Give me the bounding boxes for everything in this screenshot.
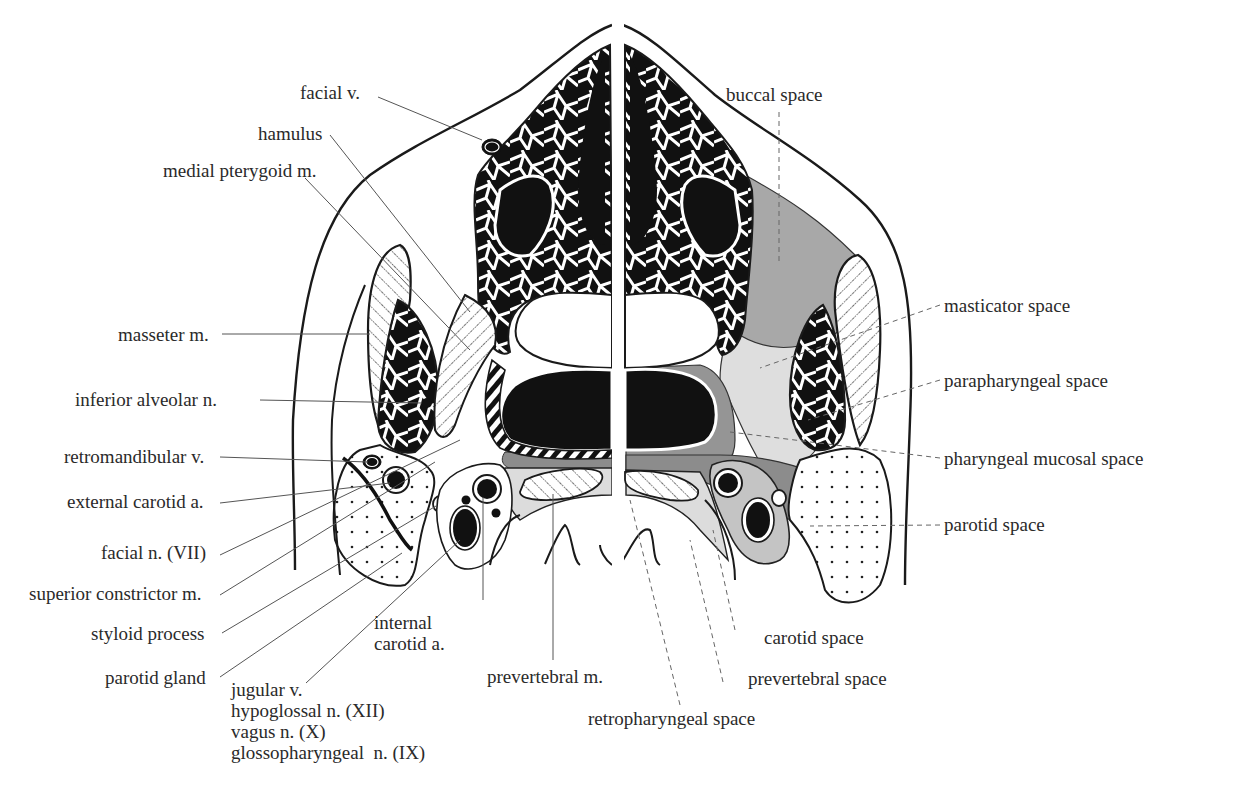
label-facial-v: facial v. <box>300 82 360 104</box>
label-external-carotid: external carotid a. <box>67 491 204 513</box>
label-pharyngeal-mucosal-space: pharyngeal mucosal space <box>944 448 1143 470</box>
label-parotid-gland: parotid gland <box>105 667 206 689</box>
label-carotid-space: carotid space <box>764 627 864 649</box>
label-internal-carotid: internal carotid a. <box>374 612 445 654</box>
label-hamulus: hamulus <box>258 123 322 145</box>
oral-cavity <box>516 293 612 368</box>
label-facial-n: facial n. (VII) <box>101 542 206 564</box>
left-nerve-dot-1 <box>462 496 471 505</box>
left-nerve-dot-2 <box>492 509 501 518</box>
left-tongue <box>501 369 612 451</box>
label-retromandibular: retromandibular v. <box>64 446 204 468</box>
label-prevertebral-space: prevertebral space <box>748 668 887 690</box>
right-styloid <box>772 490 786 506</box>
inferior-alveolar-nerve <box>422 398 432 408</box>
label-inferior-alveolar: inferior alveolar n. <box>75 389 217 411</box>
label-prevertebral-m: prevertebral m. <box>487 666 603 688</box>
left-carotid-sheath <box>437 464 512 569</box>
label-masticator-space: masticator space <box>944 295 1070 317</box>
midline-gap <box>612 0 624 600</box>
label-parotid-space: parotid space <box>944 514 1045 536</box>
label-masseter: masseter m. <box>118 324 209 346</box>
label-retropharyngeal: retropharyngeal space <box>588 708 755 730</box>
label-buccal-space: buccal space <box>726 84 823 106</box>
label-medial-pterygoid: medial pterygoid m. <box>163 160 317 182</box>
label-styloid: styloid process <box>91 623 204 645</box>
right-tongue <box>625 369 716 450</box>
label-nerve-stack: jugular v. hypoglossal n. (XII) vagus n.… <box>231 679 425 763</box>
label-superior-constrictor: superior constrictor m. <box>29 583 202 605</box>
label-parapharyngeal-space: parapharyngeal space <box>944 370 1108 392</box>
